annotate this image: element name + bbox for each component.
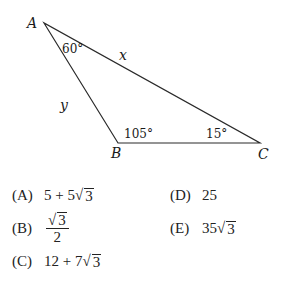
numerator: √3 bbox=[46, 212, 69, 229]
choice-prefix: 35 bbox=[202, 220, 217, 237]
choice-key: (E) bbox=[170, 220, 202, 237]
denominator: 2 bbox=[54, 229, 62, 245]
radicand: 3 bbox=[57, 212, 67, 227]
fraction: √3 2 bbox=[46, 212, 69, 245]
choice-prefix: 5 + 5 bbox=[44, 187, 75, 204]
choice-key: (B) bbox=[12, 220, 44, 237]
radicand: 3 bbox=[92, 254, 102, 269]
sqrt-icon: √ bbox=[82, 253, 90, 271]
choice-e[interactable]: (E) 35 √3 bbox=[170, 220, 236, 237]
answer-choices: (A) 5 + 5 √3 (B) √3 2 (C) 12 + 7 √3 (D) … bbox=[0, 0, 291, 288]
choice-prefix: 12 + 7 bbox=[44, 253, 82, 270]
choice-a[interactable]: (A) 5 + 5 √3 bbox=[12, 187, 94, 204]
radicand: 3 bbox=[84, 188, 94, 203]
choice-key: (D) bbox=[170, 187, 202, 204]
choice-b[interactable]: (B) √3 2 bbox=[12, 212, 69, 245]
sqrt-icon: √ bbox=[217, 220, 225, 238]
radicand: 3 bbox=[226, 221, 236, 236]
sqrt-icon: √ bbox=[75, 187, 83, 205]
choice-key: (C) bbox=[12, 253, 44, 270]
choice-d[interactable]: (D) 25 bbox=[170, 187, 217, 204]
choice-key: (A) bbox=[12, 187, 44, 204]
choice-c[interactable]: (C) 12 + 7 √3 bbox=[12, 253, 101, 270]
choice-value: 25 bbox=[202, 187, 217, 204]
sqrt-icon: √ bbox=[48, 212, 56, 229]
